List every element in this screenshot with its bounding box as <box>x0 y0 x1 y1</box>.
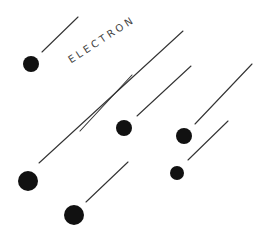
electron-dot <box>18 171 38 191</box>
electron-dots <box>18 56 192 225</box>
electron-trails <box>39 17 252 202</box>
electron-trail-line <box>137 66 191 116</box>
electron-trail-line <box>86 162 128 202</box>
electron-dot <box>170 166 184 180</box>
electron-trail-line <box>188 121 228 160</box>
electron-dot <box>23 56 39 72</box>
electron-trail-line <box>42 17 78 52</box>
electron-dot <box>176 128 192 144</box>
electron-trail-line <box>195 64 252 124</box>
electron-dot <box>116 120 132 136</box>
electron-dot <box>64 205 84 225</box>
electron-diagram <box>0 0 267 241</box>
